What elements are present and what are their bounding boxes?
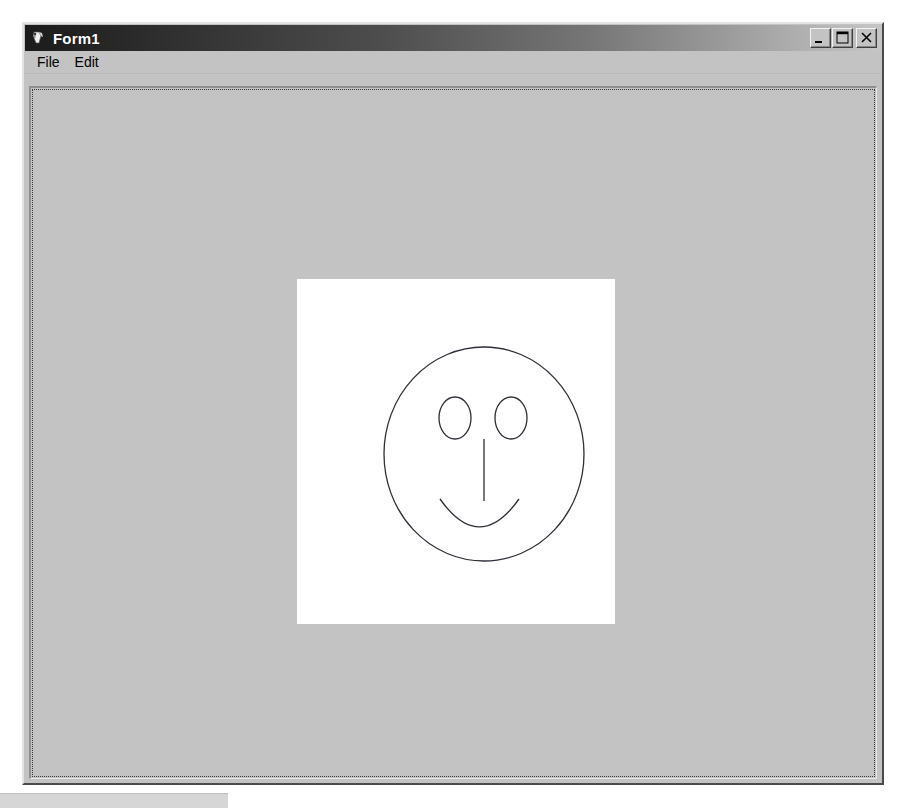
menu-item-file[interactable]: File <box>31 52 69 72</box>
smiley-face-drawing <box>297 279 615 624</box>
picture-box[interactable] <box>297 279 615 624</box>
window-title: Form1 <box>53 30 100 47</box>
minimize-button[interactable] <box>810 28 831 48</box>
window-button-group <box>810 28 879 48</box>
form-client-area[interactable] <box>29 86 877 779</box>
taskbar-strip <box>0 793 228 808</box>
mouth-shape <box>440 499 519 527</box>
menu-item-edit[interactable]: Edit <box>69 52 108 72</box>
maximize-button[interactable] <box>832 28 853 48</box>
form-window: Form1 File Edit <box>22 22 884 785</box>
menu-bar: File Edit <box>25 51 881 74</box>
form-surface[interactable] <box>32 89 875 777</box>
left-eye-shape <box>439 397 471 439</box>
vb-form-icon[interactable] <box>30 29 48 47</box>
right-eye-shape <box>495 397 527 439</box>
title-bar[interactable]: Form1 <box>25 25 881 51</box>
close-button[interactable] <box>856 28 877 48</box>
